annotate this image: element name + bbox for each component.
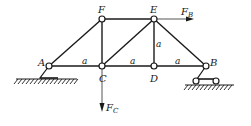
roller-support-B (184, 66, 234, 90)
label-node-A: A (37, 57, 45, 68)
truss-members (49, 19, 206, 66)
label-node-D: D (149, 73, 158, 84)
member-AF (49, 19, 102, 66)
pinned-support-A (14, 66, 78, 84)
label-node-B: B (209, 57, 217, 68)
joint-D (151, 63, 157, 69)
load-label-FC: FC (105, 102, 119, 115)
dim-label-AC: a (82, 56, 87, 66)
joint-C (99, 63, 105, 69)
member-CE (102, 19, 154, 66)
joint-A (46, 63, 52, 69)
joint-F (99, 16, 105, 22)
dim-label-DB: a (175, 56, 180, 66)
joint-B (203, 63, 209, 69)
dim-label-CD: a (130, 56, 135, 66)
arrow-down-icon (100, 103, 105, 112)
dim-label-ED: a (156, 39, 161, 49)
truss-diagram: A C D B F E a a a a FB FC (0, 0, 251, 126)
label-node-E: E (149, 4, 158, 15)
label-node-C: C (99, 73, 107, 84)
label-node-F: F (97, 4, 106, 15)
joint-E (151, 16, 157, 22)
truss-svg: A C D B F E a a a a FB FC (0, 0, 251, 126)
